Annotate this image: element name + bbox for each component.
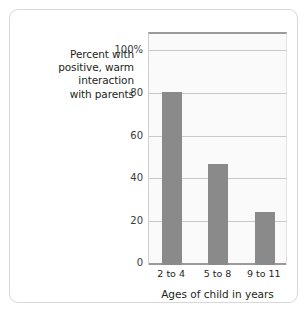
y-tick-label-40: 40: [130, 173, 143, 183]
y-tick-label-0: 0: [137, 258, 143, 268]
bar-slot: [242, 34, 288, 265]
y-tick-label-100: 100%: [114, 45, 143, 55]
y-tick-label-20: 20: [130, 216, 143, 226]
y-axis-caption-line-4: with parents: [24, 88, 134, 101]
x-tick-label: 5 to 8: [194, 268, 240, 280]
x-tick-labels: 2 to 45 to 89 to 11: [148, 268, 287, 282]
y-tick-label-60: 60: [130, 131, 143, 141]
bar[interactable]: [162, 92, 182, 265]
y-axis-caption: Percent with positive, warm interaction …: [24, 48, 134, 101]
y-axis-caption-line-3: interaction: [24, 74, 134, 87]
x-tick-label: 2 to 4: [148, 268, 194, 280]
figure-frame: Percent with positive, warm interaction …: [9, 9, 298, 303]
y-tick-label-80: 80: [130, 88, 143, 98]
bars-layer: [149, 34, 286, 265]
bar-slot: [195, 34, 241, 265]
bar[interactable]: [255, 212, 275, 265]
x-tick-label: 9 to 11: [241, 268, 287, 280]
bar[interactable]: [208, 164, 228, 265]
bar-slot: [149, 34, 195, 265]
plot-area: 020406080100%: [148, 32, 287, 265]
x-axis-title: Ages of child in years: [140, 288, 295, 301]
figure-card: Percent with positive, warm interaction …: [0, 0, 307, 312]
y-axis-caption-line-2: positive, warm: [24, 61, 134, 74]
